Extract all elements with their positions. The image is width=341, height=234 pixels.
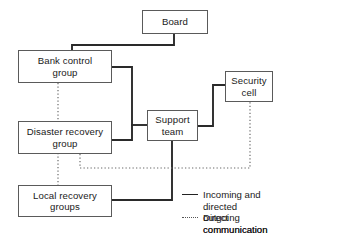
legend-item-dotted: Direct communication flow [182,212,268,234]
edge-support-to-security [198,85,225,126]
edge-support-to-local [112,141,172,200]
node-support-team[interactable]: Support team [147,110,198,141]
edge-board-to-bank [72,34,174,50]
node-support-team-label: Support team [153,114,191,137]
node-local-recovery-groups-label: Local recovery groups [31,190,99,213]
node-board-label: Board [160,16,190,28]
legend-item-dotted-label: Direct communication flow [203,212,268,234]
edge-bank-to-support-bus [112,67,132,140]
node-disaster-recovery-group-label: Disaster recovery group [25,126,105,149]
node-board[interactable]: Board [142,10,208,34]
diagram-canvas: Board Bank control group Disaster recove… [0,0,341,234]
node-security-cell[interactable]: Security cell [225,71,273,102]
node-bank-control-group[interactable]: Bank control group [18,50,112,83]
node-security-cell-label: Security cell [229,75,268,98]
solid-line-icon [182,194,198,195]
dotted-line-icon [182,217,198,218]
node-disaster-recovery-group[interactable]: Disaster recovery group [18,121,112,154]
node-bank-control-group-label: Bank control group [36,55,95,78]
node-local-recovery-groups[interactable]: Local recovery groups [18,185,112,217]
